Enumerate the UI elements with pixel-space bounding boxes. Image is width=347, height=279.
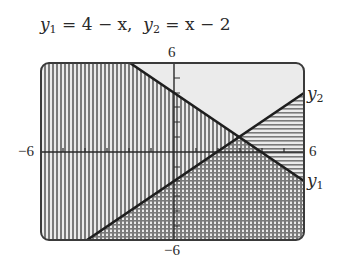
y2-label-name: y — [307, 83, 317, 103]
y-max-label: 6 — [168, 44, 176, 61]
graph-screen — [0, 0, 347, 279]
y1-label-sub: 1 — [317, 179, 324, 192]
x-max-label: 6 — [309, 143, 317, 160]
y1-label-name: y — [307, 170, 317, 190]
x-min-label: −6 — [18, 143, 34, 160]
y2-curve-label: y2 — [307, 83, 324, 105]
y-min-label: −6 — [164, 242, 180, 259]
y1-curve-label: y1 — [307, 170, 324, 192]
y2-label-sub: 2 — [317, 92, 324, 105]
